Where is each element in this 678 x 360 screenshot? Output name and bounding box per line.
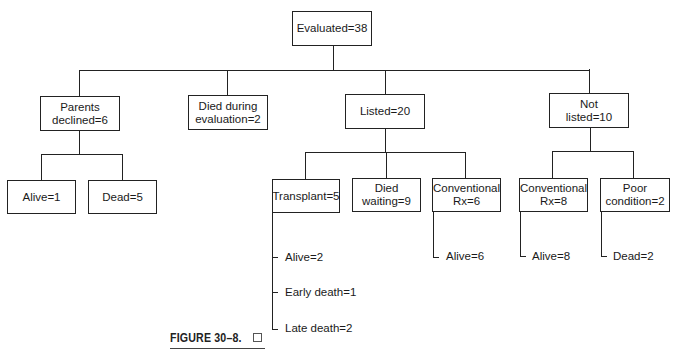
node-label: Evaluated=38 (297, 22, 368, 35)
connector (305, 152, 306, 179)
caption-underline (170, 348, 265, 349)
node-label: Parents declined=6 (52, 101, 108, 127)
leaf-alive-6: Alive=6 (446, 250, 484, 263)
connector (272, 292, 278, 293)
connector (433, 212, 434, 257)
connector (552, 151, 634, 152)
connector (333, 46, 334, 70)
node-label: Transplant=5 (272, 190, 339, 203)
node-transplant: Transplant=5 (272, 179, 340, 213)
connector (79, 70, 80, 96)
node-label: Died waiting=9 (362, 182, 411, 208)
connector (79, 131, 80, 154)
connector (41, 154, 42, 180)
connector (590, 128, 591, 151)
connector (272, 329, 278, 330)
node-label: Not listed=10 (566, 98, 612, 124)
figure-caption: FIGURE 30–8. (170, 331, 242, 345)
connector (272, 213, 273, 330)
node-listed: Listed=20 (345, 94, 425, 129)
connector (122, 154, 123, 180)
node-evaluated: Evaluated=38 (292, 11, 372, 46)
connector (552, 151, 553, 178)
connector (633, 151, 634, 178)
connector (41, 154, 123, 155)
node-label: Dead=5 (102, 191, 143, 204)
node-dead-5: Dead=5 (88, 180, 157, 214)
node-label: Conventional Rx=8 (520, 182, 587, 208)
leaf-early-death-1: Early death=1 (285, 286, 356, 299)
connector (601, 256, 607, 257)
node-parents-declined: Parents declined=6 (40, 96, 120, 131)
connector (433, 257, 439, 258)
node-alive-1: Alive=1 (7, 180, 76, 214)
node-died-during-evaluation: Died during evaluation=2 (188, 95, 268, 130)
node-poor-condition: Poor condition=2 (600, 178, 670, 212)
node-label: Listed=20 (360, 105, 410, 118)
connector (589, 69, 590, 93)
connector (385, 129, 386, 152)
node-died-waiting: Died waiting=9 (352, 178, 421, 212)
node-label: Alive=1 (22, 191, 60, 204)
leaf-alive-2: Alive=2 (285, 251, 323, 264)
connector (520, 212, 521, 257)
connector (79, 70, 590, 71)
connector (272, 257, 278, 258)
node-label: Conventional Rx=6 (433, 182, 500, 208)
connector (385, 70, 386, 94)
node-conventional-rx-8: Conventional Rx=8 (519, 178, 588, 212)
square-marker-icon (253, 333, 262, 342)
connector (465, 152, 466, 178)
connector (520, 256, 526, 257)
leaf-alive-8: Alive=8 (532, 250, 570, 263)
connector (386, 152, 387, 178)
leaf-late-death-2: Late death=2 (285, 322, 352, 335)
connector (227, 70, 228, 95)
node-not-listed: Not listed=10 (549, 93, 629, 128)
node-label: Poor condition=2 (605, 182, 664, 208)
node-conventional-rx-6: Conventional Rx=6 (432, 178, 501, 212)
leaf-dead-2: Dead=2 (613, 250, 654, 263)
connector (601, 212, 602, 257)
node-label: Died during evaluation=2 (195, 100, 261, 126)
